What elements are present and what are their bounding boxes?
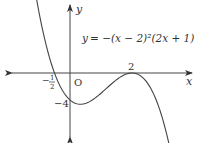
- equation-label: y = −(x − 2)²(2x + 1): [81, 32, 194, 44]
- tick-label-neg-half: − 1 2: [42, 74, 55, 91]
- cubic-graph: y x O 2 −4 − 1 2 y = −(x − 2)²(2x + 1): [0, 0, 198, 143]
- svg-text:= −(x − 2)²(2x + 1): = −(x − 2)²(2x + 1): [90, 32, 194, 44]
- tick-label-neg4: −4: [54, 98, 69, 109]
- origin-label: O: [74, 77, 82, 88]
- svg-text:1: 1: [50, 74, 54, 82]
- svg-text:2: 2: [50, 83, 54, 91]
- svg-text:−: −: [42, 75, 50, 85]
- tick-label-2: 2: [128, 61, 134, 72]
- cubic-curve: [34, 0, 172, 143]
- y-axis-label: y: [75, 3, 83, 16]
- svg-text:y: y: [81, 32, 89, 44]
- x-axis-label: x: [186, 75, 193, 88]
